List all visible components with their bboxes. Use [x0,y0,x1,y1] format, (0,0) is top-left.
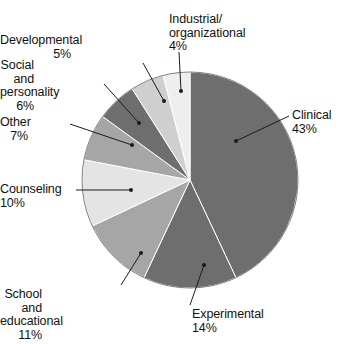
pie-label-social-and-personality: Social and personality 6% [0,59,34,113]
pie-label-developmental: Developmental 5% [0,34,71,61]
pie-label-experimental: Experimental 14% [192,308,264,335]
leader-dot-counseling [129,188,133,192]
leader-dot-experimental [202,263,206,267]
pie-label-counseling: Counseling 10% [0,183,5,210]
leader-dot-developmental [162,99,166,103]
pie-label-other: Other 7% [0,116,28,143]
pie-chart: Clinical 43%Experimental 14%School and e… [0,0,347,344]
leader-dot-other [130,143,134,147]
pie-label-school-and-educational: School and educational 11% [0,288,42,342]
pie-slices [82,72,298,288]
leader-dot-industrial-organizational [179,89,183,93]
leader-dot-clinical [234,139,238,143]
pie-label-industrial-organizational: Industrial/ organizational 4% [169,13,245,54]
pie-label-clinical: Clinical 43% [292,109,332,136]
leader-dot-social-and-personality [137,121,141,125]
leader-dot-school-and-educational [139,251,143,255]
